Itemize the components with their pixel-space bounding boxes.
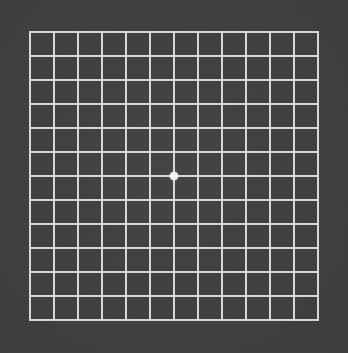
grid-line-vertical-10	[269, 31, 271, 321]
grid-line-vertical-1	[53, 31, 55, 321]
grid-line-vertical-8	[221, 31, 223, 321]
grid-line-vertical-2	[77, 31, 79, 321]
grid-line-vertical-11	[293, 31, 295, 321]
grid-line-vertical-9	[245, 31, 247, 321]
grid-line-vertical-7	[197, 31, 199, 321]
grid-line-vertical-5	[149, 31, 151, 321]
grid-line-vertical-12	[317, 31, 319, 321]
grid-line-vertical-0	[29, 31, 31, 321]
amsler-grid-chart: Amsler grid vision test chart	[0, 0, 348, 353]
grid-line-vertical-3	[101, 31, 103, 321]
grid-line-vertical-4	[125, 31, 127, 321]
fixation-dot	[170, 172, 178, 180]
